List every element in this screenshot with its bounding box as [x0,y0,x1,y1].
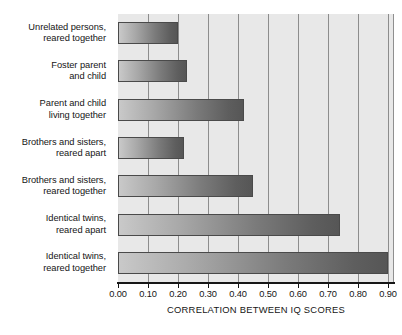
category-label-line1: Identical twins, [46,213,106,224]
category-label: Identical twins, reared apart [0,205,112,243]
x-axis-title: CORRELATION BETWEEN IQ SCORES [118,304,394,315]
category-label-line2: reared apart [56,225,106,236]
bar[interactable] [118,137,184,159]
category-label-line2: living together [49,110,106,121]
category-label-line2: reared together [43,263,106,274]
bar-slot [118,91,393,129]
x-tick-label: 0.40 [229,288,247,301]
category-axis: Unrelated persons, reared together Foste… [0,14,112,282]
x-tick-label: 0.90 [379,288,397,301]
bar-slot [118,129,393,167]
bar[interactable] [118,99,244,121]
bar-slot [118,14,393,52]
category-label-line1: Parent and child [40,98,106,109]
category-label-line2: and child [69,71,106,82]
category-label-line1: Foster parent [51,60,106,71]
x-tick-label: 0.70 [319,288,337,301]
category-label: Brothers and sisters, reared apart [0,129,112,167]
x-tick-label: 0.30 [199,288,217,301]
category-label-line2: reared together [43,33,106,44]
category-label-line2: reared together [43,186,106,197]
x-tick-label: 0.80 [349,288,367,301]
bar[interactable] [118,214,340,236]
category-label-line1: Unrelated persons, [28,22,106,33]
category-label: Identical twins, reared together [0,244,112,282]
category-label: Unrelated persons, reared together [0,14,112,52]
bars-layer [118,14,393,282]
category-label-line1: Brothers and sisters, [22,175,106,186]
bar[interactable] [118,22,178,44]
category-label-line1: Brothers and sisters, [22,137,106,148]
x-tick-label: 0.60 [289,288,307,301]
x-tick-label: 0.20 [169,288,187,301]
bar-chart-figure: Unrelated persons, reared together Foste… [0,0,402,335]
x-tick-label: 0.00 [109,288,127,301]
category-label-line2: reared apart [56,148,106,159]
plot-area [118,14,394,282]
category-label-line1: Identical twins, [46,251,106,262]
category-label: Foster parent and child [0,52,112,90]
bar-slot [118,52,393,90]
bar-slot [118,167,393,205]
x-axis-tick-labels: 0.000.100.200.300.400.500.600.700.800.90 [118,288,394,302]
category-label: Brothers and sisters, reared together [0,167,112,205]
bar-slot [118,244,393,282]
bar[interactable] [118,175,253,197]
bar[interactable] [118,60,187,82]
x-tick-label: 0.50 [259,288,277,301]
bar-slot [118,205,393,243]
category-label: Parent and child living together [0,91,112,129]
x-tick-label: 0.10 [139,288,157,301]
bar[interactable] [118,252,388,274]
